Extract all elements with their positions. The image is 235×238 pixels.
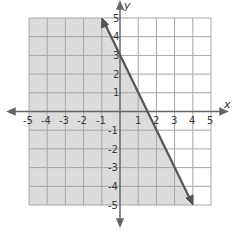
- coordinate-plane: x y -5 -4 -3 -2 -1 1 2 3 4 5 5 4 3 2 1 -…: [0, 0, 235, 238]
- svg-text:5: 5: [207, 115, 213, 126]
- svg-text:2: 2: [113, 69, 119, 80]
- y-axis-label: y: [123, 0, 131, 12]
- svg-text:5: 5: [113, 13, 119, 24]
- svg-text:-1: -1: [96, 115, 106, 126]
- svg-text:1: 1: [135, 115, 141, 126]
- svg-text:-2: -2: [77, 115, 87, 126]
- svg-text:-3: -3: [108, 162, 118, 173]
- svg-text:-5: -5: [23, 115, 33, 126]
- svg-text:-5: -5: [108, 200, 118, 211]
- svg-text:-4: -4: [41, 115, 51, 126]
- svg-text:-1: -1: [108, 125, 118, 136]
- svg-text:3: 3: [171, 115, 177, 126]
- svg-text:-2: -2: [108, 144, 118, 155]
- svg-text:4: 4: [189, 115, 195, 126]
- svg-text:1: 1: [113, 87, 119, 98]
- svg-text:-3: -3: [59, 115, 69, 126]
- x-axis-label: x: [223, 98, 231, 111]
- svg-text:-4: -4: [108, 181, 118, 192]
